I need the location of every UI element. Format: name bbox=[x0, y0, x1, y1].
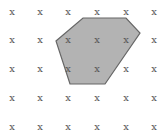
x-marker: x bbox=[65, 121, 71, 132]
shaded-polygon bbox=[56, 18, 140, 84]
x-marker: x bbox=[9, 92, 15, 103]
x-marker: x bbox=[9, 121, 15, 132]
x-marker: x bbox=[151, 34, 157, 45]
x-marker: x bbox=[151, 6, 157, 17]
grid-diagram: xxxxxxxxxxxxxxxxxxxxxxxxxxxxxx bbox=[0, 0, 167, 135]
x-marker: x bbox=[123, 121, 129, 132]
x-marker: x bbox=[65, 92, 71, 103]
x-marker: x bbox=[9, 6, 15, 17]
x-marker: x bbox=[9, 63, 15, 74]
x-marker: x bbox=[123, 34, 129, 45]
x-marker: x bbox=[9, 34, 15, 45]
x-marker: x bbox=[94, 121, 100, 132]
x-marker: x bbox=[37, 34, 43, 45]
x-marker: x bbox=[65, 34, 71, 45]
x-marker: x bbox=[151, 63, 157, 74]
x-marker: x bbox=[123, 92, 129, 103]
x-marker: x bbox=[151, 92, 157, 103]
x-marker: x bbox=[37, 6, 43, 17]
x-marker: x bbox=[65, 63, 71, 74]
x-marker: x bbox=[37, 121, 43, 132]
x-marker: x bbox=[94, 34, 100, 45]
x-marker: x bbox=[123, 6, 129, 17]
x-marker: x bbox=[94, 6, 100, 17]
x-marker: x bbox=[151, 121, 157, 132]
x-marker: x bbox=[123, 63, 129, 74]
x-marker: x bbox=[65, 6, 71, 17]
x-marker: x bbox=[37, 92, 43, 103]
x-marker: x bbox=[37, 63, 43, 74]
x-marker: x bbox=[94, 92, 100, 103]
x-marker: x bbox=[94, 63, 100, 74]
